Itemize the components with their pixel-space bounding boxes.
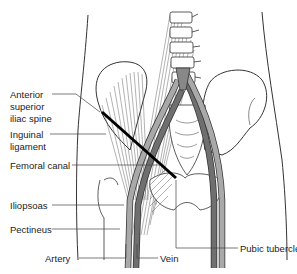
label-vein: Vein <box>160 253 179 264</box>
label-inguinal-line2: ligament <box>10 141 46 152</box>
femoral-anatomy-diagram: Anterior superior iliac spine Inguinal l… <box>0 0 297 274</box>
label-asis-line3: iliac spine <box>10 113 52 124</box>
label-artery: Artery <box>45 253 70 264</box>
label-inguinal-line1: Inguinal <box>10 129 43 140</box>
label-pectineus: Pectineus <box>10 224 52 235</box>
label-asis-line2: superior <box>10 101 44 112</box>
label-iliopsoas: Iliopsoas <box>10 200 48 211</box>
body-outline-right <box>262 12 287 260</box>
label-pubic-tubercle: Pubic tubercle <box>240 243 297 254</box>
body-outline-left <box>77 15 89 260</box>
left-femur <box>98 178 118 260</box>
label-femoral-canal: Femoral canal <box>10 160 70 171</box>
label-asis-line1: Anterior <box>10 89 43 100</box>
